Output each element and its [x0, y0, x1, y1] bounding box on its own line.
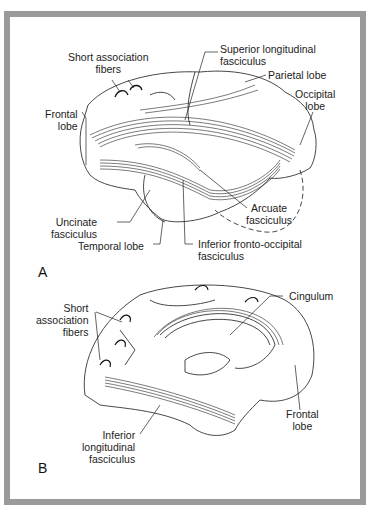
label-line: fibers	[36, 326, 89, 338]
label-line: lobe	[286, 420, 319, 432]
label-line: fasciculus	[246, 214, 292, 226]
label-short-association-fibers-b: Short association fibers	[36, 302, 89, 338]
label-line: Superior longitudinal	[220, 43, 316, 55]
label-line: Arcuate	[246, 202, 292, 214]
label-frontal-lobe-a: Frontal lobe	[45, 108, 78, 132]
label-line: lobe	[295, 100, 335, 112]
label-line: fibers	[68, 63, 149, 75]
label-parietal-lobe: Parietal lobe	[268, 69, 326, 81]
label-line: fasciculus	[220, 55, 316, 67]
label-short-association-fibers-a: Short association fibers	[68, 51, 149, 75]
label-line: association	[36, 314, 89, 326]
label-line: fasciculus	[198, 250, 302, 262]
label-line: Inferior	[82, 429, 135, 441]
label-line: lobe	[45, 120, 78, 132]
label-line: Inferior fronto-occipital	[198, 238, 302, 250]
label-line: Short association	[68, 51, 149, 63]
label-line: Frontal	[45, 108, 78, 120]
label-line: Occipital	[295, 88, 335, 100]
label-superior-longitudinal-fasciculus: Superior longitudinal fasciculus	[220, 43, 316, 67]
label-line: Uncinate	[51, 216, 97, 228]
label-frontal-lobe-b: Frontal lobe	[286, 408, 319, 432]
label-uncinate-fasciculus: Uncinate fasciculus	[51, 216, 97, 240]
label-line: fasciculus	[51, 228, 97, 240]
label-line: fasciculus	[82, 453, 135, 465]
label-occipital-lobe: Occipital lobe	[295, 88, 335, 112]
label-line: longitudinal	[82, 441, 135, 453]
label-cingulum: Cingulum	[289, 290, 333, 302]
label-temporal-lobe: Temporal lobe	[78, 240, 144, 252]
label-inferior-fronto-occipital-fasciculus: Inferior fronto-occipital fasciculus	[198, 238, 302, 262]
label-arcuate-fasciculus: Arcuate fasciculus	[246, 202, 292, 226]
panel-label-a: A	[38, 264, 47, 280]
label-line: Short	[36, 302, 89, 314]
label-inferior-longitudinal-fasciculus: Inferior longitudinal fasciculus	[82, 429, 135, 465]
label-line: Frontal	[286, 408, 319, 420]
panel-label-b: B	[38, 460, 47, 476]
